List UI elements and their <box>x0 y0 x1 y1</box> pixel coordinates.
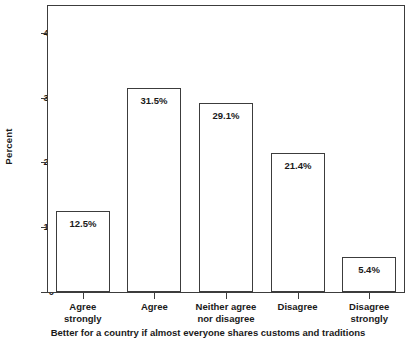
x-category-label-line1: Agree <box>141 301 168 312</box>
x-tick-mark <box>226 293 227 299</box>
x-category-label-line1: Neither agree <box>196 301 257 312</box>
y-axis-title: Percent <box>0 0 16 293</box>
plot-area <box>47 5 405 293</box>
x-tick-mark <box>369 293 370 299</box>
x-category-label-line2: strongly <box>47 313 119 325</box>
x-tick-mark <box>83 293 84 299</box>
x-category-label-line1: Disagree <box>278 301 318 312</box>
x-category-label: Disagreestrongly <box>333 301 405 324</box>
x-category-label-line2: nor disagree <box>190 313 262 325</box>
x-tick-mark <box>154 293 155 299</box>
x-category-label: Disagree <box>262 301 334 313</box>
x-category-label: Agree <box>119 301 191 313</box>
x-category-label: Neither agreenor disagree <box>190 301 262 324</box>
x-category-label-line2: strongly <box>333 313 405 325</box>
y-axis-title-text: Percent <box>3 128 14 164</box>
x-tick-mark <box>298 293 299 299</box>
x-category-label: Agreestrongly <box>47 301 119 324</box>
chart-caption: Better for a country if almost everyone … <box>0 327 416 338</box>
x-category-label-line1: Agree <box>69 301 96 312</box>
x-category-label-line1: Disagree <box>349 301 389 312</box>
